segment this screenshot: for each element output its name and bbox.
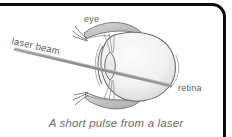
lens-group [105,52,116,80]
figure-container: eye retina laser beam A short pulse from… [0,0,232,137]
figure-caption: A short pulse from a laser [0,117,232,129]
label-retina: retina [178,84,202,93]
label-eye: eye [84,15,99,24]
lens-shape [105,52,116,80]
